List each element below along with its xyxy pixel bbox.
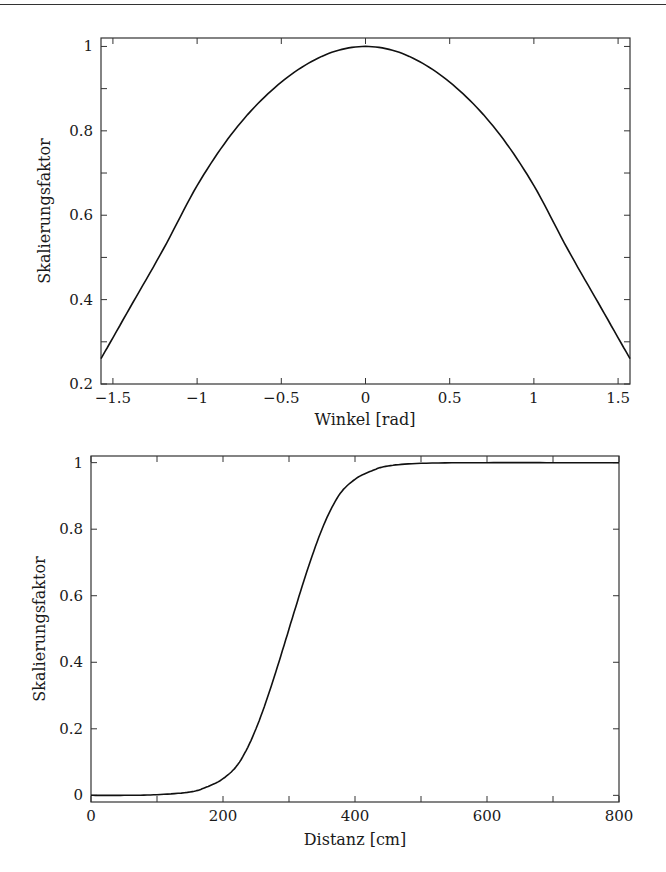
y-tick-label: 0.8 xyxy=(69,122,93,140)
x-tick-label: 0.5 xyxy=(438,389,462,407)
x-axis-label: Winkel [rad] xyxy=(315,410,416,429)
x-tick-label: 400 xyxy=(341,807,370,825)
data-line xyxy=(91,463,619,796)
y-tick-label: 1 xyxy=(83,37,93,55)
y-tick-label: 0.6 xyxy=(69,206,93,224)
x-tick-label: 600 xyxy=(473,807,502,825)
x-tick-label: −0.5 xyxy=(263,389,299,407)
y-axis-ticks: 0.20.40.60.81 xyxy=(69,37,630,393)
x-tick-label: 1 xyxy=(529,389,539,407)
x-tick-label: 800 xyxy=(605,807,634,825)
data-line xyxy=(101,46,630,358)
chart-angle-scaling: 0.20.40.60.81 −1.5−1−0.500.511.5 Winkel … xyxy=(35,37,630,429)
y-axis-label: Skalierungsfaktor xyxy=(30,556,49,702)
y-tick-label: 0.8 xyxy=(59,520,83,538)
plot-frame xyxy=(101,38,630,384)
x-axis-label: Distanz [cm] xyxy=(304,830,407,849)
chart-distance-scaling: 00.20.40.60.81 0200400600800 Distanz [cm… xyxy=(30,454,633,849)
y-axis-ticks: 00.20.40.60.81 xyxy=(59,454,619,805)
y-tick-label: 0.4 xyxy=(59,653,83,671)
y-tick-label: 0.6 xyxy=(59,587,83,605)
x-tick-label: 1.5 xyxy=(606,389,630,407)
x-axis-ticks: −1.5−1−0.500.511.5 xyxy=(95,38,630,407)
y-tick-label: 0 xyxy=(73,786,83,804)
y-tick-label: 0.2 xyxy=(59,720,83,738)
x-axis-ticks: 0200400600800 xyxy=(86,456,633,825)
y-tick-label: 0.4 xyxy=(69,291,93,309)
x-tick-label: −1 xyxy=(186,389,208,407)
plot-frame xyxy=(91,456,619,802)
x-tick-label: 200 xyxy=(209,807,238,825)
y-axis-label: Skalierungsfaktor xyxy=(35,138,54,284)
x-tick-label: 0 xyxy=(86,807,96,825)
y-tick-label: 0.2 xyxy=(69,375,93,393)
x-tick-label: 0 xyxy=(361,389,371,407)
figure: 0.20.40.60.81 −1.5−1−0.500.511.5 Winkel … xyxy=(0,0,666,872)
y-tick-label: 1 xyxy=(73,454,83,472)
x-tick-label: −1.5 xyxy=(95,389,131,407)
